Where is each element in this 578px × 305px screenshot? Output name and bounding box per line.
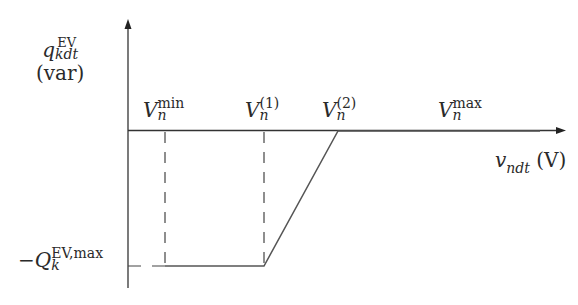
marker-qmax-symbol: Q [35, 248, 51, 272]
marker-qmax: −QEV,maxk [18, 250, 103, 278]
marker-v1-sub: n [259, 108, 279, 122]
y-axis-subscript: kdt [55, 47, 78, 61]
marker-vmin-sub: n [157, 108, 184, 122]
marker-vmax-symbol: V [438, 98, 452, 122]
marker-v2-sub: n [336, 108, 356, 122]
marker-v1: V(1)n [245, 100, 279, 128]
x-axis-unit: (V) [536, 148, 566, 172]
x-axis-symbol: v [495, 148, 506, 172]
marker-qmax-sub: k [51, 258, 103, 272]
marker-vmax: Vmaxn [438, 100, 482, 128]
marker-v2-symbol: V [322, 98, 336, 122]
y-axis-symbol: q [42, 38, 55, 62]
characteristic-curve [165, 131, 540, 266]
marker-vmin: Vminn [143, 100, 184, 128]
marker-vmax-sub: n [452, 108, 482, 122]
marker-vmin-symbol: V [143, 98, 157, 122]
marker-v2: V(2)n [322, 100, 356, 128]
marker-v1-symbol: V [245, 98, 259, 122]
x-axis-subscript: ndt [506, 160, 530, 176]
x-axis-label: vndt (V) [495, 150, 566, 170]
marker-qmax-prefix: − [18, 248, 35, 272]
x-axis-arrow-icon [556, 127, 566, 134]
y-axis-arrow-icon [125, 19, 132, 29]
y-axis-label: qEVkdt (var) [36, 40, 84, 83]
